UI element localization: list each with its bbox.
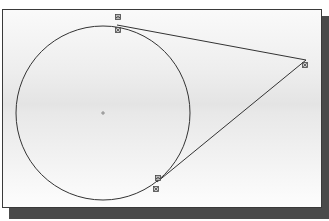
coincident-constraint-icon[interactable] [302, 62, 308, 68]
coincident-constraint-icon[interactable] [153, 186, 159, 192]
upper-tangent-line[interactable] [117, 25, 306, 60]
center-point-marker[interactable] [101, 111, 105, 115]
lower-tangent-line[interactable] [157, 60, 306, 182]
tangent-constraint-icon[interactable] [115, 14, 121, 20]
sketch-geometry [0, 0, 329, 221]
tangent-constraint-icon[interactable] [155, 175, 161, 181]
coincident-constraint-icon[interactable] [115, 27, 121, 33]
